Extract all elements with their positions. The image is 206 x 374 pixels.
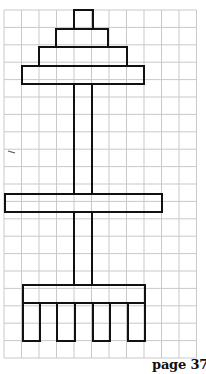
graph-paper-figure (0, 0, 206, 374)
leg-2-rect (57, 303, 75, 341)
leg-3-rect (93, 303, 110, 341)
tier-3-rect (39, 47, 127, 66)
tier-1-rect (74, 10, 93, 29)
lower-pole-rect (74, 212, 92, 285)
stray-pen-mark (8, 151, 15, 153)
upper-pole-rect (74, 84, 92, 194)
leg-4-rect (128, 303, 145, 341)
page-number-label: page 37 (152, 357, 206, 372)
leg-1-rect (23, 303, 40, 341)
middle-crossbar-rect (5, 194, 162, 212)
stacked-rectangle-figure (5, 10, 162, 341)
graph-grid (4, 10, 197, 358)
tier-4-rect (22, 66, 144, 84)
